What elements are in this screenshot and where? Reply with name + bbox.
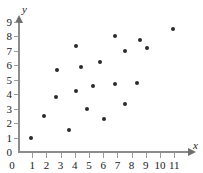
- y-tick-label: 1: [0, 133, 12, 144]
- data-point: [113, 82, 117, 86]
- data-point: [91, 84, 95, 88]
- y-tick-mark: [14, 94, 18, 95]
- y-tick-mark: [14, 80, 18, 81]
- y-tick-label: 5: [0, 75, 12, 86]
- data-point: [135, 81, 139, 85]
- y-tick-label: 0: [0, 147, 12, 158]
- x-axis-label: x: [193, 140, 198, 151]
- data-point: [54, 95, 58, 99]
- y-tick-label: 2: [0, 118, 12, 129]
- data-point: [113, 34, 117, 38]
- y-axis-label: y: [22, 4, 27, 15]
- data-point: [55, 68, 59, 72]
- x-tick-mark: [174, 153, 175, 158]
- data-point: [123, 102, 127, 106]
- y-tick-label: 8: [0, 31, 12, 42]
- y-tick-label: 7: [0, 46, 12, 57]
- scatter-plot: y x 0123456789 12345678910110: [0, 0, 203, 173]
- x-tick-mark: [146, 153, 147, 158]
- y-tick-mark: [14, 123, 18, 124]
- x-tick-mark: [117, 153, 118, 158]
- data-point: [138, 38, 142, 42]
- data-point: [29, 136, 33, 140]
- data-point: [79, 65, 83, 69]
- y-tick-mark: [14, 36, 18, 37]
- data-point: [67, 128, 71, 132]
- data-point: [102, 117, 106, 121]
- y-axis-line: [18, 22, 20, 153]
- y-tick-mark: [14, 22, 18, 23]
- y-tick-label: 3: [0, 104, 12, 115]
- x-tick-mark: [89, 153, 90, 158]
- x-tick-mark: [160, 153, 161, 158]
- y-tick-label: 9: [0, 17, 12, 28]
- x-tick-label: 11: [166, 160, 182, 171]
- x-tick-mark: [75, 153, 76, 158]
- y-tick-mark: [14, 138, 18, 139]
- data-point: [74, 44, 78, 48]
- y-tick-label: 4: [0, 89, 12, 100]
- data-point: [74, 89, 78, 93]
- x-tick-mark: [132, 153, 133, 158]
- origin-label: 0: [4, 160, 20, 171]
- x-tick-mark: [103, 153, 104, 158]
- data-point: [171, 27, 175, 31]
- y-tick-mark: [14, 109, 18, 110]
- y-tick-mark: [14, 65, 18, 66]
- x-tick-mark: [61, 153, 62, 158]
- y-tick-mark: [14, 51, 18, 52]
- data-point: [42, 114, 46, 118]
- data-point: [145, 46, 149, 50]
- x-tick-mark: [46, 153, 47, 158]
- x-tick-mark: [32, 153, 33, 158]
- data-point: [98, 60, 102, 64]
- data-point: [85, 107, 89, 111]
- y-tick-label: 6: [0, 60, 12, 71]
- data-point: [123, 49, 127, 53]
